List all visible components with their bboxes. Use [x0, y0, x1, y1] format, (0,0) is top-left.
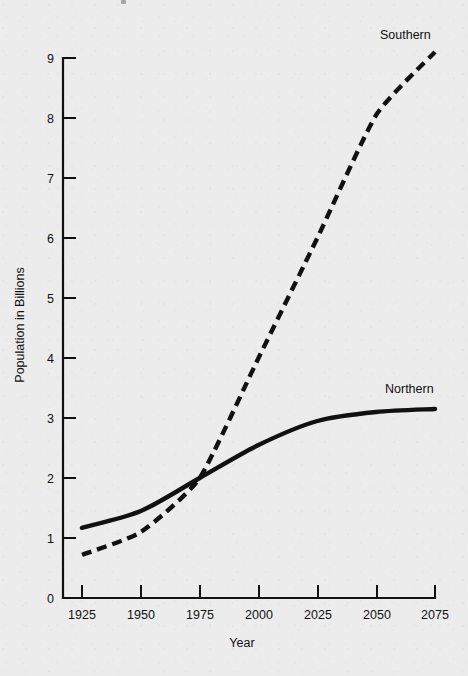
y-axis: 9 8 7 6 5 4 3 2 1 0 Population in Billio…: [13, 52, 76, 606]
y-tick-label-1: 1: [47, 532, 54, 546]
x-tick-label-2075: 2075: [421, 608, 449, 622]
y-tick-label-9: 9: [47, 52, 54, 66]
series-line-northern: [82, 409, 435, 528]
y-tick-label-2: 2: [47, 472, 54, 486]
x-axis: 1925 1950 1975 2000 2025 2050 2075 Year: [63, 585, 449, 650]
y-tick-label-8: 8: [47, 112, 54, 126]
y-tick-label-0: 0: [47, 592, 54, 606]
series-label-northern: Northern: [385, 382, 434, 396]
y-axis-title: Population in Billions: [13, 267, 27, 382]
x-tick-label-1950: 1950: [127, 608, 155, 622]
y-tick-label-3: 3: [47, 412, 54, 426]
x-tick-label-1975: 1975: [186, 608, 214, 622]
x-tick-label-2000: 2000: [245, 608, 273, 622]
x-axis-title: Year: [229, 636, 254, 650]
chart-page: 9 8 7 6 5 4 3 2 1 0 Population in Billio…: [0, 0, 468, 676]
population-line-chart: 9 8 7 6 5 4 3 2 1 0 Population in Billio…: [0, 0, 468, 676]
y-tick-label-5: 5: [47, 292, 54, 306]
x-tick-label-2050: 2050: [363, 608, 391, 622]
y-tick-label-6: 6: [47, 232, 54, 246]
x-tick-label-2025: 2025: [304, 608, 332, 622]
series-label-southern: Southern: [380, 28, 431, 42]
y-tick-label-7: 7: [47, 172, 54, 186]
series-group: [82, 52, 435, 555]
x-tick-label-1925: 1925: [68, 608, 96, 622]
series-line-southern: [82, 52, 435, 555]
scan-artifact: [121, 0, 126, 4]
y-tick-label-4: 4: [47, 352, 54, 366]
